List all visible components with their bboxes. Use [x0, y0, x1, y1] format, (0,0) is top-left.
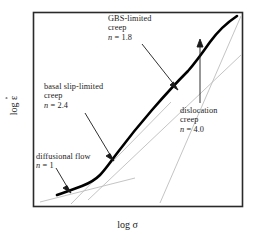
- annotation-diffusional-flow: diffusional flow n = 1: [36, 152, 91, 171]
- annotation-gbs-line2: creep: [108, 23, 152, 32]
- annotation-basal-exponent-value: = 2.4: [48, 101, 68, 110]
- y-axis-label-symbol: ε: [8, 96, 19, 100]
- annotation-dislocation-line2: creep: [180, 115, 218, 124]
- annotation-dislocation-line1: dislocation: [180, 106, 218, 115]
- annotation-gbs-line1: GBS-limited: [108, 14, 152, 23]
- annotation-basal-exponent: n = 2.4: [44, 101, 103, 110]
- annotation-basal-line1: basal slip-limited: [44, 82, 103, 91]
- annotation-diffusional-exponent: n = 1: [36, 161, 91, 170]
- y-axis-label: log ε: [8, 76, 19, 136]
- annotation-gbs-limited-creep: GBS-limited creep n = 1.8: [108, 14, 152, 42]
- annotation-dislocation-exponent: n = 4.0: [180, 125, 218, 134]
- x-axis-label-symbol: σ: [132, 219, 137, 230]
- x-axis-label: log σ: [0, 219, 255, 230]
- annotation-diffusional-exponent-value: = 1: [40, 161, 53, 170]
- annotation-gbs-exponent: n = 1.8: [108, 33, 152, 42]
- annotation-dislocation-creep: dislocation creep n = 4.0: [180, 106, 218, 134]
- annotation-basal-line2: creep: [44, 91, 103, 100]
- deformation-mechanism-figure: GBS-limited creep n = 1.8 basal slip-lim…: [0, 0, 255, 241]
- x-axis-label-prefix: log: [117, 219, 132, 230]
- annotation-gbs-exponent-value: = 1.8: [112, 33, 132, 42]
- y-axis-label-prefix: log: [8, 100, 19, 115]
- annotation-diffusional-line1: diffusional flow: [36, 152, 91, 161]
- annotation-dislocation-exponent-value: = 4.0: [184, 125, 204, 134]
- annotation-basal-slip-limited-creep: basal slip-limited creep n = 2.4: [44, 82, 103, 110]
